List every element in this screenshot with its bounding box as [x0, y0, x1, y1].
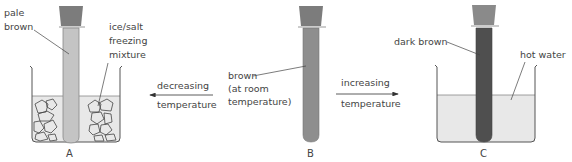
setup-b: brown (at room temperature) B — [228, 6, 326, 159]
arrow-right-line2: temperature — [341, 98, 401, 109]
bath-a-label-line3: mixture — [109, 49, 146, 60]
tube-b-label-line3: temperature) — [228, 96, 291, 107]
caption-a: A — [66, 148, 73, 159]
arrow-left-line2: temperature — [157, 99, 217, 110]
tube-b-label-line2: (at room — [228, 83, 269, 94]
tube-b-label-line1: brown — [228, 70, 257, 81]
equilibrium-diagram: pale brown ice/salt freezing mixture A d… — [0, 0, 572, 162]
arrow-right-line1: increasing — [341, 77, 390, 88]
stopper-b — [299, 6, 323, 26]
setup-c: dark brown hot water C — [394, 5, 566, 159]
test-tube-a — [63, 28, 79, 143]
decreasing-temperature-arrow: decreasing temperature — [150, 80, 217, 110]
bath-a-label-line1: ice/salt — [109, 21, 143, 32]
tube-a-label-line1: pale — [4, 7, 24, 18]
caption-b: B — [307, 148, 314, 159]
setup-a: pale brown ice/salt freezing mixture A — [4, 6, 147, 159]
test-tube-c — [476, 28, 492, 142]
stopper-a — [59, 6, 83, 26]
tube-a-label-line2: brown — [4, 21, 33, 32]
arrow-left-line1: decreasing — [157, 80, 209, 91]
caption-c: C — [480, 148, 487, 159]
bath-c-label: hot water — [520, 49, 566, 60]
tube-c-label: dark brown — [394, 36, 448, 47]
increasing-temperature-arrow: increasing temperature — [336, 77, 401, 109]
bath-a-label-line2: freezing — [109, 35, 147, 46]
stopper-c — [472, 5, 496, 25]
test-tube-b — [303, 28, 319, 142]
